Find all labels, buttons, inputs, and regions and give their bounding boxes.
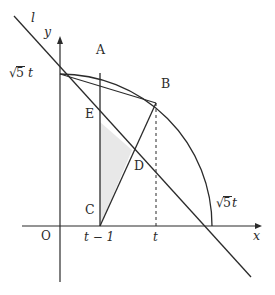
radius-label-x-axis: √5t	[215, 196, 237, 210]
line-l-label: l	[31, 12, 35, 25]
point-label-c: C	[85, 204, 95, 217]
radius-label-y-axis: √5t	[8, 66, 33, 80]
point-label-b: B	[161, 78, 170, 91]
tick-label-t: t	[153, 231, 158, 243]
point-label-d: D	[134, 160, 144, 173]
radius-variable-y: t	[28, 65, 33, 80]
point-label-a: A	[96, 44, 105, 57]
x-axis	[22, 223, 262, 229]
geometry-canvas	[0, 0, 275, 295]
sqrt-radicand-y: 5	[16, 66, 25, 80]
y-axis	[57, 36, 63, 282]
x-axis-label: x	[253, 230, 260, 243]
origin-label: O	[41, 230, 51, 242]
radius-variable-x: t	[232, 195, 237, 210]
sqrt-radicand-x: 5	[223, 196, 232, 210]
tick-label-t-minus-1: t − 1	[84, 231, 114, 243]
shaded-region-triangle-ecd	[100, 122, 132, 226]
point-label-e: E	[85, 108, 94, 121]
geometry-figure: A B C D E x y l O t − 1 t √5t √5t	[0, 0, 275, 295]
chord-top-to-b	[60, 74, 156, 103]
y-axis-label: y	[44, 26, 51, 39]
sqrt-group-y: √5	[8, 66, 25, 80]
sqrt-group-x: √5	[215, 196, 232, 210]
